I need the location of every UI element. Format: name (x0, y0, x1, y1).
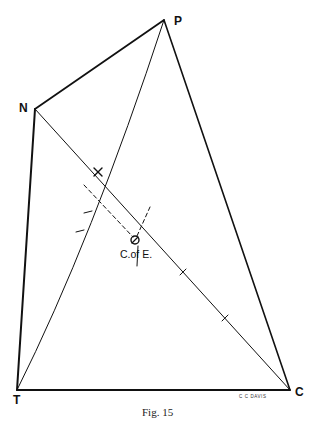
curve-t-p (17, 20, 164, 390)
center-marker (132, 237, 138, 243)
label-c: C (295, 385, 304, 399)
edge-n-t (17, 109, 35, 390)
dashed-line (137, 207, 150, 236)
diagram-canvas (0, 0, 321, 426)
label-t: T (13, 393, 20, 407)
tick-mark (84, 211, 92, 213)
edge-p-n (35, 20, 164, 109)
label-n: N (19, 101, 28, 115)
tick-mark (76, 230, 84, 232)
edge-p-c (164, 20, 290, 390)
figure-caption: Fig. 15 (142, 406, 173, 418)
signature: C C DAVIS (239, 394, 267, 399)
label-p: P (174, 14, 182, 28)
center-label: C.of E. (120, 248, 152, 260)
edge-n-c (35, 109, 290, 390)
